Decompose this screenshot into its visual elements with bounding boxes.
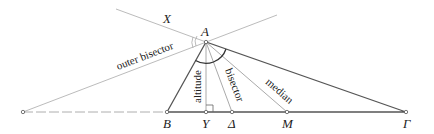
label-m: M: [281, 116, 294, 131]
label-y: Y: [202, 116, 211, 131]
altitude-label: altitude: [191, 70, 203, 103]
label-delta: Δ: [227, 116, 236, 131]
triangle-figure: A B Y Δ M Γ X outer bisector altitude bi…: [0, 0, 434, 134]
label-a: A: [200, 24, 209, 39]
median-label: median: [264, 75, 297, 106]
point-gamma: [404, 110, 407, 113]
label-gamma: Γ: [402, 116, 411, 131]
point-delta: [230, 110, 233, 113]
extension-line: [116, 9, 206, 42]
outer-bisector-label: outer bisector: [114, 39, 175, 72]
point-outer: [21, 110, 24, 113]
outer-angle-arc-2: [195, 36, 197, 46]
point-y: [204, 110, 207, 113]
geometry-diagram: A B Y Δ M Γ X outer bisector altitude bi…: [0, 0, 434, 134]
point-m: [285, 110, 288, 113]
outer-angle-arc: [192, 37, 193, 48]
point-b: [165, 110, 168, 113]
median-line: [206, 42, 287, 112]
point-a: [204, 40, 207, 43]
label-x: X: [162, 11, 172, 26]
label-b: B: [163, 116, 171, 131]
